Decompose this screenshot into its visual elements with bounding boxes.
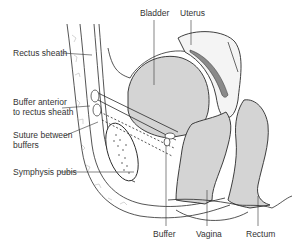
label-bladder: Bladder	[140, 8, 169, 18]
rectum-shape	[228, 100, 270, 208]
perineal-body	[176, 210, 248, 220]
label-rectus-sheath: Rectus sheath	[13, 48, 67, 58]
label-buffer: Buffer	[153, 229, 176, 239]
label-symphysis-pubis: Symphysis pubis	[13, 167, 77, 177]
label-uterus: Uterus	[180, 8, 205, 18]
label-buffer-anterior: Buffer anterior to rectus sheath	[13, 97, 73, 117]
label-rectum: Rectum	[246, 229, 275, 239]
wall-texture	[72, 35, 127, 205]
anatomical-diagram	[0, 0, 299, 248]
label-vagina: Vagina	[196, 229, 222, 239]
label-suture-between-buffers: Suture between buffers	[13, 130, 73, 150]
symphysis-pubis-shape	[99, 119, 144, 185]
